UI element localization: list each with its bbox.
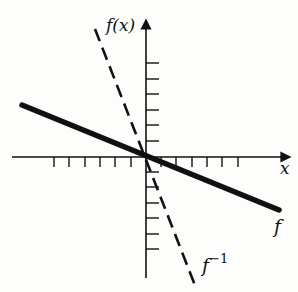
f-inverse-superscript: −1 (209, 251, 228, 266)
f-inverse-label: f−1 (200, 251, 228, 276)
graph: f(x) x f f−1 (0, 0, 298, 292)
y-axis-label: f(x) (104, 15, 135, 35)
x-axis-label: x (280, 158, 290, 178)
f-label: f (272, 215, 284, 237)
